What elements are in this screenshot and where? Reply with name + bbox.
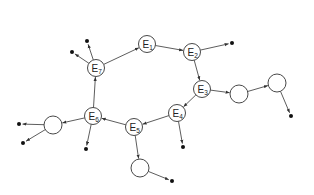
event-node-e2: E2 — [184, 44, 201, 61]
edge-arrow-e4-e5 — [143, 116, 169, 125]
edge-arrow-c1-c2 — [248, 86, 268, 92]
terminal-dots-layer — [17, 39, 293, 183]
empty-node — [131, 159, 149, 177]
edge-arrow-e5-c3 — [135, 135, 138, 158]
event-node-e3: E3 — [194, 81, 211, 98]
terminal-dot — [21, 141, 25, 145]
edge-arrow-e6-d9 — [87, 124, 92, 145]
edge-arrow-e2-d3 — [200, 44, 228, 50]
edge-arrow-e7-e1 — [104, 48, 139, 65]
edge-arrow-e6-c4 — [62, 118, 84, 123]
event-node-e4: E4 — [169, 105, 186, 122]
terminal-dot — [84, 147, 88, 151]
edge-arrow-e5-e6 — [102, 118, 126, 125]
labeled-nodes-layer: E1E2E3E4E5E6E7 — [85, 36, 211, 136]
edge-arrow-c3-d6 — [148, 171, 169, 179]
terminal-dot — [85, 39, 89, 43]
terminal-dot — [181, 145, 185, 149]
event-node-e5: E5 — [126, 119, 143, 136]
event-node-e6: E6 — [85, 108, 102, 125]
terminal-dot — [230, 41, 234, 45]
edge-arrow-e3-e4 — [184, 95, 196, 107]
event-graph-diagram: E1E2E3E4E5E6E7 — [0, 0, 314, 195]
event-node-e7: E7 — [88, 60, 105, 77]
edge-arrow-c2-d4 — [281, 91, 290, 113]
edge-arrow-c4-d7 — [23, 124, 45, 125]
terminal-dot — [17, 122, 21, 126]
empty-nodes-layer — [44, 74, 286, 177]
event-node-e1: E1 — [139, 36, 156, 53]
empty-node — [268, 74, 286, 92]
edge-arrow-e4-d5 — [179, 121, 183, 143]
terminal-dot — [70, 50, 74, 54]
terminal-dot — [289, 114, 293, 118]
edge-arrow-e6-e7 — [94, 77, 96, 108]
edge-arrow-e3-c1 — [210, 90, 229, 93]
edge-arrow-e1-e2 — [155, 46, 183, 51]
edge-arrow-e7-d2 — [88, 44, 93, 60]
empty-node — [44, 116, 62, 134]
edges-layer — [23, 44, 290, 180]
edge-arrow-e2-e3 — [194, 60, 200, 80]
empty-node — [230, 85, 248, 103]
edge-arrow-c4-d8 — [26, 130, 45, 142]
terminal-dot — [170, 179, 174, 183]
edge-arrow-e7-d1 — [75, 54, 89, 63]
